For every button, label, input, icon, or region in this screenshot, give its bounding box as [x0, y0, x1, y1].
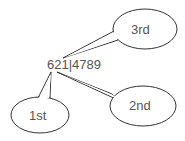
callout-1st — [11, 72, 69, 133]
callout-label-3rd: 3rd — [131, 22, 150, 37]
callout-label-2nd: 2nd — [129, 98, 151, 113]
callout-label-1st: 1st — [29, 108, 46, 123]
callout-3rd — [63, 9, 177, 58]
callout-2nd — [57, 72, 176, 126]
center-value-label: 621|4789 — [47, 57, 101, 72]
